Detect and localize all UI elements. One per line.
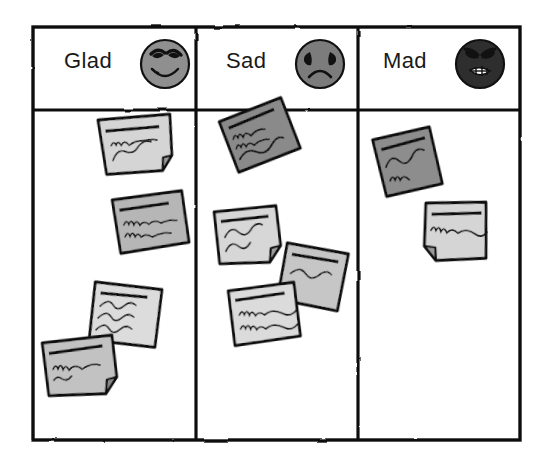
sticky-note[interactable] (214, 206, 282, 266)
sticky-note[interactable] (424, 200, 488, 262)
retrospective-board: Glad Sad Mad (0, 0, 546, 461)
sticky-note[interactable] (228, 282, 301, 346)
column-header-label-mad: Mad (383, 50, 427, 72)
sad-frowning-face-icon (296, 40, 344, 88)
column-header-label-sad: Sad (226, 50, 266, 72)
smiley-happy-face-icon (141, 40, 189, 88)
sticky-note[interactable] (42, 335, 118, 398)
angry-face-icon (456, 40, 504, 88)
sticky-note[interactable] (112, 190, 189, 253)
column-header-label-glad: Glad (64, 50, 112, 72)
sticky-note[interactable] (98, 111, 177, 177)
